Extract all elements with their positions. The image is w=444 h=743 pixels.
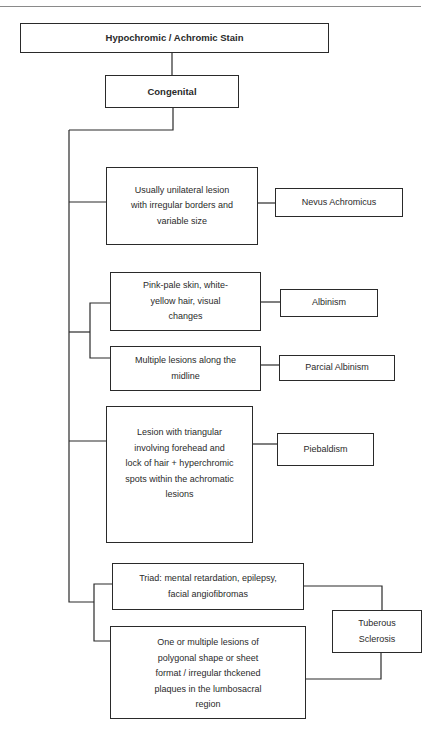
category-node: Congenital <box>105 75 239 108</box>
connector-lesions-tuberous <box>305 652 381 679</box>
diagnosis-node: Piebaldism <box>277 433 374 466</box>
diagnosis-node: Albinism <box>280 289 378 317</box>
condition-text: Triad: mental retardation, epilepsy, fac… <box>139 571 277 602</box>
condition-text: Pink-pale skin, white-yellow hair, visua… <box>133 278 238 325</box>
condition-text: One or multiple lesions of polygonal sha… <box>147 635 269 713</box>
diagnosis-label: Tuberous Sclerosis <box>343 616 411 647</box>
root-node: Hypochromic / Achromic Stain <box>20 23 329 53</box>
condition-node: One or multiple lesions of polygonal sha… <box>110 626 306 719</box>
root-label: Hypochromic / Achromic Stain <box>106 30 244 46</box>
diagnosis-node: Parcial Albinism <box>279 355 395 381</box>
main-spine <box>69 130 94 602</box>
condition-node: Usually unilateral lesion with irregular… <box>106 167 258 245</box>
category-label: Congenital <box>147 84 196 100</box>
diagnosis-label: Parcial Albinism <box>305 360 369 376</box>
diagnosis-label: Piebaldism <box>303 442 347 458</box>
condition-node: Multiple lesions along the midline <box>110 346 261 391</box>
condition-node: Pink-pale skin, white-yellow hair, visua… <box>110 272 261 331</box>
diagnosis-node: Nevus Achromicus <box>275 188 403 217</box>
condition-text: Multiple lesions along the midline <box>133 353 238 384</box>
diagnosis-label: Albinism <box>312 295 346 311</box>
connector-triad-tuberous <box>303 586 382 610</box>
condition-text: Lesion with triangular involving forehea… <box>125 425 234 503</box>
condition-text: Usually unilateral lesion with irregular… <box>127 183 237 230</box>
connector-category-spine <box>69 107 173 130</box>
diagnosis-label: Nevus Achromicus <box>302 195 377 211</box>
diagnosis-node: Tuberous Sclerosis <box>332 610 422 653</box>
albinism-sub-spine <box>90 303 110 358</box>
condition-node: Triad: mental retardation, epilepsy, fac… <box>112 563 304 610</box>
condition-node: Lesion with triangular involving forehea… <box>106 406 253 543</box>
